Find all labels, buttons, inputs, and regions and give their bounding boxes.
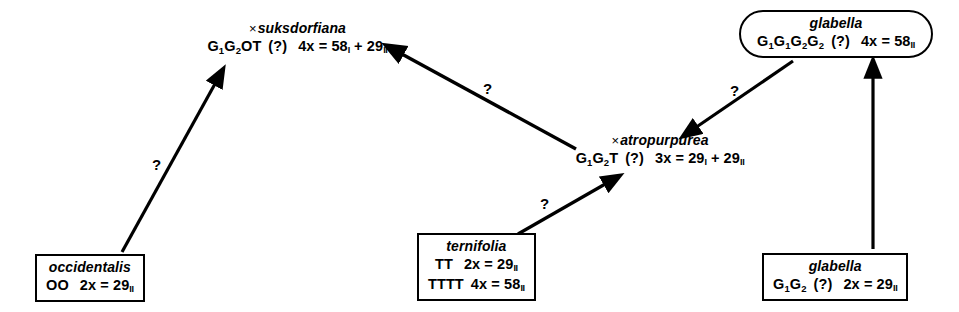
arrow-glabella-top-to-atropurpurea	[695, 61, 793, 128]
node-ternifolia-formula-row2: TTTT4x = 58II	[428, 275, 525, 295]
arrow-occidentalis-to-suksdorfiana	[122, 82, 216, 252]
arrow-ternifolia-to-atropurpurea	[518, 183, 607, 234]
arrow-label-ternifolia-to-atropurpurea: ?	[540, 195, 549, 212]
node-atropurpurea-formula: G1G2T(?)3x = 29I + 29II	[545, 149, 775, 169]
hybridization-diagram: ×suksdorfiana G1G2OT(?)4x = 58I + 29II g…	[0, 0, 959, 312]
node-occidentalis: occidentalis OO2x = 29II	[35, 254, 145, 302]
node-occidentalis-formula: OO2x = 29II	[46, 276, 134, 296]
hybrid-sign-icon: ×	[249, 21, 258, 36]
node-glabella-top: glabella G1G1G2G2(?)4x = 58II	[739, 10, 933, 58]
node-glabella-top-formula: G1G1G2G2(?)4x = 58II	[757, 32, 915, 52]
arrow-label-occidentalis-to-suksdorfiana: ?	[152, 156, 161, 173]
arrow-label-glabella-top-to-atropurpurea: ?	[730, 82, 739, 99]
node-ternifolia-formula-row1: TT2x = 29II	[428, 255, 525, 275]
node-occidentalis-name: occidentalis	[46, 259, 134, 276]
arrow-label-atropurpurea-to-suksdorfiana: ?	[483, 80, 492, 97]
node-suksdorfiana-formula: G1G2OT(?)4x = 58I + 29II	[190, 37, 405, 57]
node-glabella-bottom-name: glabella	[773, 258, 897, 275]
hybrid-sign-icon: ×	[611, 133, 620, 148]
node-ternifolia: ternifolia TT2x = 29II TTTT4x = 58II	[417, 233, 536, 301]
node-atropurpurea: ×atropurpurea G1G2T(?)3x = 29I + 29II	[545, 132, 775, 169]
node-glabella-bottom: glabella G1G2(?)2x = 29II	[762, 253, 908, 301]
node-ternifolia-name: ternifolia	[428, 238, 525, 255]
node-suksdorfiana-name: ×suksdorfiana	[190, 20, 405, 37]
node-glabella-top-name: glabella	[757, 15, 915, 32]
node-suksdorfiana: ×suksdorfiana G1G2OT(?)4x = 58I + 29II	[190, 20, 405, 57]
node-atropurpurea-name: ×atropurpurea	[545, 132, 775, 149]
node-glabella-bottom-formula: G1G2(?)2x = 29II	[773, 275, 897, 295]
